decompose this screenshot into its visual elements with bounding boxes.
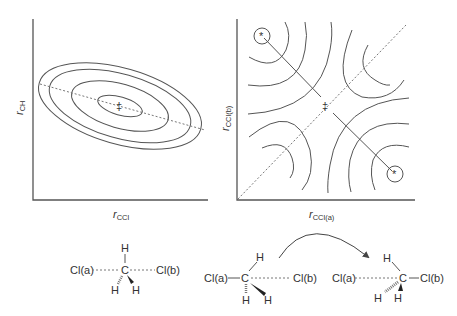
x-axis-label: rCCl (113, 208, 130, 222)
reactant-h-top: H (256, 251, 264, 263)
saddle-point-marker-right: ‡ (322, 100, 328, 112)
top-right-ridge-contours (343, 30, 404, 98)
reactant-h-bottom-left: H (242, 294, 250, 306)
product-h-bottom-right: H (394, 292, 402, 304)
reactant-carbon: C (241, 272, 249, 284)
reactant-cl-a: Cl(a) (204, 272, 228, 284)
reactant-structure: Cl(a) C Cl(b) H H H (204, 251, 317, 306)
y-axis-label-right: rCCl(b) (219, 105, 233, 131)
top-left-minimum-marker: * (259, 30, 264, 42)
product-h-bottom-left: H (374, 292, 382, 304)
transition-state-structure: Cl(a) C Cl(b) H H H (70, 242, 180, 296)
product-cl-b: Cl(b) (420, 272, 444, 284)
product-wedge-bond (398, 283, 403, 291)
product-carbon: C (399, 272, 407, 284)
right-energy-surface-plot: * * ‡ rCCl(a) rCCl(b) (219, 19, 415, 222)
ts-carbon: C (121, 264, 129, 276)
reaction-path-to-product (333, 113, 392, 171)
x-axis-label-right: rCCl(a) (309, 208, 335, 222)
reaction-arrow (279, 234, 368, 258)
ts-h-top: H (121, 242, 129, 254)
ts-wedge-bond (127, 275, 134, 284)
reactant-h-bottom-right: H (264, 294, 272, 306)
ts-h-bottom-left: H (111, 284, 119, 296)
reaction-path-to-reactant (264, 38, 321, 97)
product-hashed-bond (385, 282, 398, 292)
left-energy-surface-plot: ‡ rCCl rCH (13, 19, 211, 222)
bottom-right-well-contours (328, 98, 409, 193)
ts-h-bottom-right: H (132, 284, 140, 296)
ts-cl-b: Cl(b) (156, 264, 180, 276)
product-structure: Cl(a) C Cl(b) H H H (332, 252, 444, 304)
product-cl-a: Cl(a) (332, 272, 356, 284)
reaction-path-dashed (40, 84, 205, 130)
product-h-top: H (383, 252, 391, 264)
y-axis-label: rCH (13, 100, 27, 115)
ts-hashed-bond (118, 276, 122, 284)
saddle-point-marker: ‡ (116, 100, 122, 112)
bottom-right-minimum-marker: * (392, 168, 397, 180)
ts-cl-a: Cl(a) (70, 264, 94, 276)
reactant-cl-b: Cl(b) (293, 272, 317, 284)
